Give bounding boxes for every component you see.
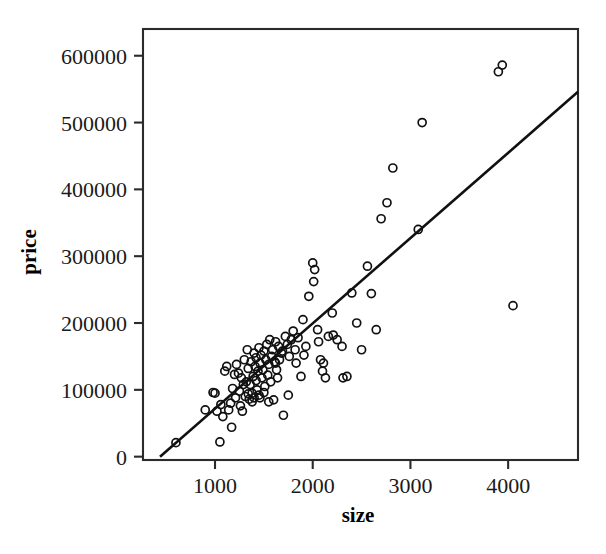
data-point bbox=[383, 199, 391, 207]
y-tick-label: 200000 bbox=[61, 311, 127, 336]
y-tick-label: 600000 bbox=[61, 44, 127, 69]
data-point bbox=[367, 290, 375, 298]
data-point bbox=[292, 359, 300, 367]
regression-line bbox=[160, 92, 578, 457]
y-tick-label: 500000 bbox=[61, 111, 127, 136]
data-point bbox=[291, 346, 299, 354]
x-tick-label: 4000 bbox=[486, 473, 530, 498]
chart-canvas: 1000200030004000 01000002000003000004000… bbox=[0, 0, 606, 554]
data-point bbox=[232, 394, 240, 402]
data-point bbox=[270, 396, 278, 404]
y-tick-label: 300000 bbox=[61, 244, 127, 269]
data-point bbox=[358, 346, 366, 354]
x-tick-label: 3000 bbox=[388, 473, 432, 498]
y-tick-label: 100000 bbox=[61, 378, 127, 403]
data-point bbox=[498, 61, 506, 69]
data-point bbox=[299, 316, 307, 324]
least-squares-line bbox=[160, 92, 578, 457]
data-point bbox=[201, 406, 209, 414]
data-point bbox=[228, 423, 236, 431]
data-point bbox=[418, 119, 426, 127]
data-point bbox=[363, 262, 371, 270]
data-point bbox=[297, 372, 305, 380]
data-point bbox=[279, 411, 287, 419]
data-point bbox=[314, 326, 322, 334]
data-point bbox=[377, 215, 385, 223]
data-point bbox=[300, 351, 308, 359]
y-axis-ticks bbox=[134, 56, 143, 457]
data-point bbox=[338, 342, 346, 350]
data-point bbox=[509, 302, 517, 310]
data-point bbox=[216, 438, 224, 446]
x-axis-tick-labels: 1000200030004000 bbox=[193, 473, 530, 498]
data-point bbox=[233, 360, 241, 368]
axes-box bbox=[143, 29, 578, 460]
x-axis-ticks bbox=[215, 460, 508, 469]
data-point bbox=[284, 391, 292, 399]
y-tick-label: 400000 bbox=[61, 177, 127, 202]
x-axis-title: size bbox=[342, 503, 375, 527]
data-point bbox=[315, 338, 323, 346]
data-point bbox=[353, 319, 361, 327]
plot-frame bbox=[143, 29, 578, 460]
y-axis-title: price bbox=[17, 229, 41, 274]
scatter-points bbox=[172, 61, 517, 447]
data-point bbox=[321, 374, 329, 382]
data-point bbox=[372, 326, 380, 334]
data-point bbox=[265, 398, 273, 406]
data-point bbox=[310, 278, 318, 286]
data-point bbox=[302, 342, 310, 350]
data-point bbox=[274, 374, 282, 382]
x-tick-label: 2000 bbox=[291, 473, 335, 498]
data-point bbox=[305, 292, 313, 300]
y-tick-label: 0 bbox=[116, 445, 127, 470]
y-axis-tick-labels: 0100000200000300000400000500000600000 bbox=[61, 44, 127, 470]
scatter-plot-figure: 1000200030004000 01000002000003000004000… bbox=[0, 0, 606, 554]
data-point bbox=[389, 164, 397, 172]
x-tick-label: 1000 bbox=[193, 473, 237, 498]
